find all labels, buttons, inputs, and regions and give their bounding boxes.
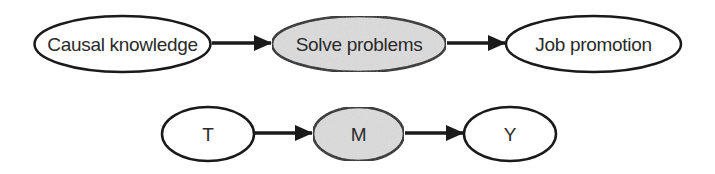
node-label: Causal knowledge [47, 34, 197, 55]
node-causal-knowledge: Causal knowledge [35, 16, 211, 72]
node-label: Y [504, 124, 517, 145]
node-label: M [351, 124, 367, 145]
node-job-promotion: Job promotion [506, 16, 681, 72]
node-T: T [162, 107, 254, 161]
row-symbolic: T M Y [162, 107, 556, 161]
node-label: Solve problems [296, 34, 423, 55]
node-label: Job promotion [535, 34, 652, 55]
node-M: M [313, 107, 404, 161]
causal-diagram: Causal knowledge Solve problems Job prom… [0, 0, 715, 174]
node-Y: Y [464, 107, 556, 161]
row-descriptive: Causal knowledge Solve problems Job prom… [35, 16, 682, 72]
node-solve-problems: Solve problems [272, 16, 446, 72]
node-label: T [202, 124, 214, 145]
